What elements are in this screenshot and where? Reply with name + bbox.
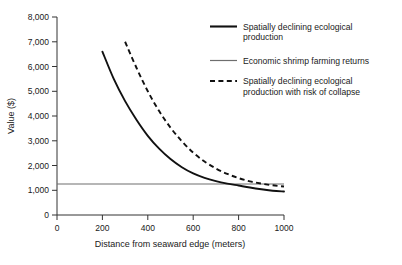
y-tick-label-2000: 2,000 (28, 161, 50, 171)
x-tick-label-600: 600 (186, 223, 200, 233)
x-tick-label-200: 200 (95, 223, 109, 233)
y-tick-label-5000: 5,000 (28, 86, 50, 96)
chart-legend: Spatially declining ecological productio… (210, 22, 369, 97)
y-tick-label-8000: 8,000 (28, 12, 50, 22)
y-tick-label-3000: 3,000 (28, 136, 50, 146)
x-tick-label-1000: 1000 (275, 223, 294, 233)
y-axis-ticks (52, 17, 57, 215)
x-axis-title: Distance from seaward edge (meters) (95, 239, 246, 249)
chart-svg: 0 1,000 2,000 3,000 4,000 5,000 6,000 7,… (0, 0, 402, 265)
y-tick-label-4000: 4,000 (28, 111, 50, 121)
x-axis-tick-labels: 0 200 400 600 800 1000 (55, 223, 294, 233)
legend-label-3-line1: Spatially declining ecological (243, 76, 352, 86)
y-axis-tick-labels: 0 1,000 2,000 3,000 4,000 5,000 6,000 7,… (28, 12, 50, 220)
x-tick-label-0: 0 (55, 223, 60, 233)
x-axis-ticks (57, 215, 284, 220)
chart-figure: 0 1,000 2,000 3,000 4,000 5,000 6,000 7,… (0, 0, 402, 265)
legend-label-1-line1: Spatially declining ecological (243, 22, 352, 32)
x-tick-label-800: 800 (232, 223, 246, 233)
legend-label-2-line1: Economic shrimp farming returns (243, 56, 369, 66)
axis-lines (57, 17, 284, 215)
series-line-spatially-declining-ecological-production (102, 52, 284, 192)
y-tick-label-6000: 6,000 (28, 62, 50, 72)
y-tick-label-1000: 1,000 (28, 185, 50, 195)
x-tick-label-400: 400 (141, 223, 155, 233)
y-axis-title: Value ($) (6, 98, 16, 134)
legend-label-1-line2: production (243, 32, 283, 42)
y-tick-label-0: 0 (44, 210, 49, 220)
y-tick-label-7000: 7,000 (28, 37, 50, 47)
legend-label-3-line2: production with risk of collapse (243, 87, 360, 97)
